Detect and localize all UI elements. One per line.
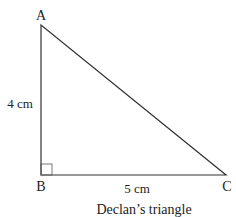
triangle-abc bbox=[41, 25, 226, 175]
diagram-caption: Declan’s triangle bbox=[96, 202, 191, 217]
triangle-diagram: A B C 4 cm 5 cm Declan’s triangle bbox=[0, 0, 236, 217]
vertex-label-b: B bbox=[36, 179, 45, 194]
right-angle-marker bbox=[41, 164, 52, 175]
side-label-bc: 5 cm bbox=[124, 181, 150, 196]
side-label-ab: 4 cm bbox=[7, 96, 33, 111]
vertex-label-a: A bbox=[36, 8, 47, 23]
vertex-label-c: C bbox=[222, 179, 231, 194]
